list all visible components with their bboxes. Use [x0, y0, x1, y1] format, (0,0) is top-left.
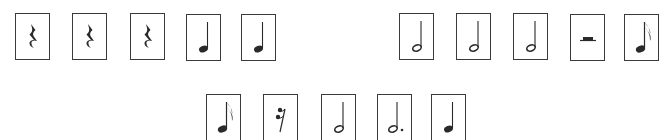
- symbol-card-quarter-rest: [130, 13, 165, 60]
- symbol-card-sixteenth-note: [624, 14, 659, 61]
- symbol-card-half-rest: [570, 14, 605, 61]
- symbol-card-half-note: [513, 13, 548, 60]
- symbol-card-half-note: [321, 94, 356, 140]
- symbol-card-sixteenth-note: [206, 94, 241, 140]
- symbol-card-sixteenth-rest: [263, 94, 298, 140]
- symbol-card-quarter-note: [241, 14, 276, 61]
- symbol-card-quarter-note: [431, 94, 466, 140]
- symbol-card-dotted-half-note: [377, 94, 412, 140]
- symbol-card-quarter-note: [186, 14, 221, 61]
- symbol-card-half-note: [399, 13, 434, 60]
- symbol-card-quarter-rest: [72, 13, 107, 60]
- symbol-card-quarter-rest: [15, 13, 50, 60]
- symbol-card-half-note: [456, 13, 491, 60]
